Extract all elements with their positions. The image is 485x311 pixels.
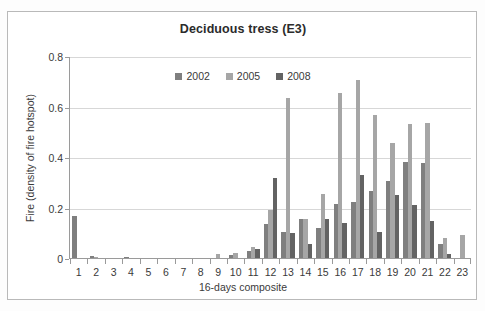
bar-group [401, 57, 418, 258]
bar-group [122, 57, 139, 258]
chart-figure: Deciduous tress (E3) 2002 2005 2008 Fire… [0, 0, 485, 311]
y-axis-tick-label: 0.4 [48, 152, 63, 164]
x-axis-tick-mark [366, 259, 383, 265]
x-axis-tick-label-6: 6 [157, 266, 174, 280]
x-axis-tick-mark [401, 259, 418, 265]
chart-title: Deciduous tress (E3) [8, 22, 478, 36]
bar-group [140, 57, 157, 258]
bar-2008-20 [412, 205, 416, 258]
bar-group [87, 57, 104, 258]
x-axis-tick-mark [244, 259, 261, 265]
bar-group [175, 57, 192, 258]
bar-group [454, 57, 471, 258]
x-axis-tick-mark [175, 259, 192, 265]
bar-group [210, 57, 227, 258]
y-axis-title: Fire (density of fire hotspot) [22, 57, 38, 259]
x-axis-title: 16-days composite [8, 281, 478, 293]
y-axis-tick-mark [65, 259, 69, 260]
x-axis-tick-label-21: 21 [419, 266, 436, 280]
x-axis-tick-mark [454, 259, 471, 265]
x-axis-tick-mark [332, 259, 349, 265]
bar-2008-17 [360, 175, 364, 258]
x-axis-tick-label-22: 22 [436, 266, 453, 280]
x-axis-tick-label-8: 8 [192, 266, 209, 280]
bar-group [366, 57, 383, 258]
x-axis-tick-label-15: 15 [314, 266, 331, 280]
bar-group [279, 57, 296, 258]
bar-group [105, 57, 122, 258]
x-axis-tick-mark [70, 259, 87, 265]
bar-group [262, 57, 279, 258]
bar-2008-22 [447, 254, 451, 258]
x-axis-tick-mark [157, 259, 174, 265]
bar-group [419, 57, 436, 258]
x-axis-tick-mark [297, 259, 314, 265]
bar-group [332, 57, 349, 258]
bar-2008-11 [255, 249, 259, 258]
x-axis-tick-label-1: 1 [70, 266, 87, 280]
x-axis-tick-label-11: 11 [244, 266, 261, 280]
y-axis-tick-label: 0.8 [48, 51, 63, 63]
bar-2005-10 [233, 253, 237, 258]
bar-group [70, 57, 87, 258]
x-axis-tick-label-19: 19 [384, 266, 401, 280]
x-axis-tick-mark [105, 259, 122, 265]
bar-2002-1 [72, 216, 76, 258]
x-axis-tick-label-17: 17 [349, 266, 366, 280]
x-axis-tick-label-2: 2 [87, 266, 104, 280]
bar-2002-4 [124, 257, 128, 258]
bar-2008-13 [290, 233, 294, 258]
bar-2008-15 [325, 219, 329, 258]
bar-group [436, 57, 453, 258]
x-axis-tick-labels: 1234567891011121314151617181920212223 [70, 266, 471, 280]
x-axis-tick-label-14: 14 [297, 266, 314, 280]
bar-group [244, 57, 261, 258]
bar-2008-21 [430, 221, 434, 258]
bar-2005-9 [216, 254, 220, 258]
x-axis-tick-label-23: 23 [454, 266, 471, 280]
x-axis-tick-mark [349, 259, 366, 265]
x-axis-tick-label-20: 20 [401, 266, 418, 280]
x-axis-tick-mark [436, 259, 453, 265]
x-axis-tick-mark [314, 259, 331, 265]
y-axis-tick-label: 0.6 [48, 102, 63, 114]
y-axis-tick-label: 0.2 [48, 203, 63, 215]
x-axis-tick-label-10: 10 [227, 266, 244, 280]
bar-2008-14 [308, 244, 312, 258]
x-axis-tick-mark [210, 259, 227, 265]
chart-plot-frame: Deciduous tress (E3) 2002 2005 2008 Fire… [7, 11, 477, 300]
bar-group [384, 57, 401, 258]
x-axis-tick-label-7: 7 [175, 266, 192, 280]
plot-area: 00.20.40.60.8 [69, 57, 471, 259]
bar-2005-2 [94, 257, 98, 259]
x-axis-tick-mark [384, 259, 401, 265]
x-axis-tick-mark [192, 259, 209, 265]
bar-group [192, 57, 209, 258]
x-axis-tick-label-5: 5 [140, 266, 157, 280]
bar-2008-19 [395, 195, 399, 258]
x-axis-tick-label-16: 16 [332, 266, 349, 280]
x-axis-tick-mark [279, 259, 296, 265]
bar-group [314, 57, 331, 258]
x-axis-tick-mark [87, 259, 104, 265]
bar-group [297, 57, 314, 258]
x-axis-tick-label-9: 9 [210, 266, 227, 280]
x-axis-tick-label-12: 12 [262, 266, 279, 280]
x-axis-tick-label-18: 18 [366, 266, 383, 280]
x-axis-tick-mark [227, 259, 244, 265]
bar-2008-16 [342, 223, 346, 258]
x-axis-tick-label-3: 3 [105, 266, 122, 280]
x-axis-tick-end [470, 259, 471, 264]
y-axis-title-text: Fire (density of fire hotspot) [24, 94, 36, 222]
x-axis-tick-mark [419, 259, 436, 265]
bar-group [227, 57, 244, 258]
y-axis-tick-label: 0 [57, 253, 63, 265]
bar-group [157, 57, 174, 258]
x-axis-tick-label-4: 4 [122, 266, 139, 280]
bar-2008-12 [273, 178, 277, 258]
x-axis-tick-mark [262, 259, 279, 265]
x-axis-tick-mark [122, 259, 139, 265]
bar-group [349, 57, 366, 258]
bars-layer [70, 57, 471, 258]
x-axis-ticks [70, 259, 471, 265]
